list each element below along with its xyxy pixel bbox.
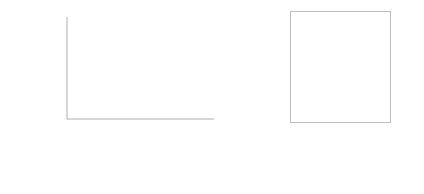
matrix-grid [290,11,391,123]
